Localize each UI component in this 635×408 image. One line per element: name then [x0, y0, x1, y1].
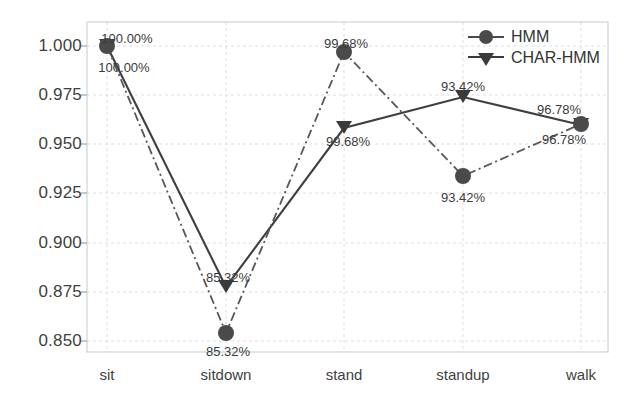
y-tick-label: 0.925 [8, 183, 82, 203]
data-label-hmm-stand: 99.68% [324, 36, 368, 51]
data-label-hmm-sitdown: 85.32% [206, 344, 250, 359]
data-label-hmm-standup: 93.42% [441, 190, 485, 205]
y-tick-label: 0.875 [8, 282, 82, 302]
legend-item-hmm[interactable]: HMM [466, 26, 616, 47]
x-tick-label-sitdown: sitdown [201, 366, 252, 383]
triangle-down-marker-icon [466, 48, 506, 68]
x-tick-label-sit: sit [100, 366, 115, 383]
x-tick-label-standup: standup [436, 366, 489, 383]
legend-label-char-hmm: CHAR-HMM [511, 49, 600, 67]
data-label-charhmm-sit: 100.00% [98, 60, 149, 75]
x-tick-label-walk: walk [566, 366, 596, 383]
y-tick-label: 1.000 [8, 36, 82, 56]
data-label-hmm-walk: 96.78% [537, 102, 581, 117]
circle-marker-icon [466, 27, 506, 47]
legend-item-char-hmm[interactable]: CHAR-HMM [466, 47, 616, 68]
y-tick-label: 0.975 [8, 85, 82, 105]
data-label-charhmm-walk: 96.78% [542, 132, 586, 147]
data-label-charhmm-stand: 99.68% [326, 134, 370, 149]
y-tick-label: 0.850 [8, 331, 82, 351]
y-tick-label: 0.950 [8, 134, 82, 154]
data-label-charhmm-standup: 93.42% [441, 79, 485, 94]
data-label-charhmm-sitdown: 85.32% [206, 270, 250, 285]
y-axis-tick-labels: 1.000 0.975 0.950 0.925 0.900 0.875 0.85… [0, 0, 82, 408]
data-label-hmm-sit: 100.00% [101, 31, 152, 46]
chart-legend: HMM CHAR-HMM [466, 26, 616, 68]
chart-figure: 1.000 0.975 0.950 0.925 0.900 0.875 0.85… [0, 0, 635, 408]
y-tick-label: 0.900 [8, 233, 82, 253]
legend-label-hmm: HMM [511, 28, 549, 46]
x-tick-label-stand: stand [326, 366, 363, 383]
